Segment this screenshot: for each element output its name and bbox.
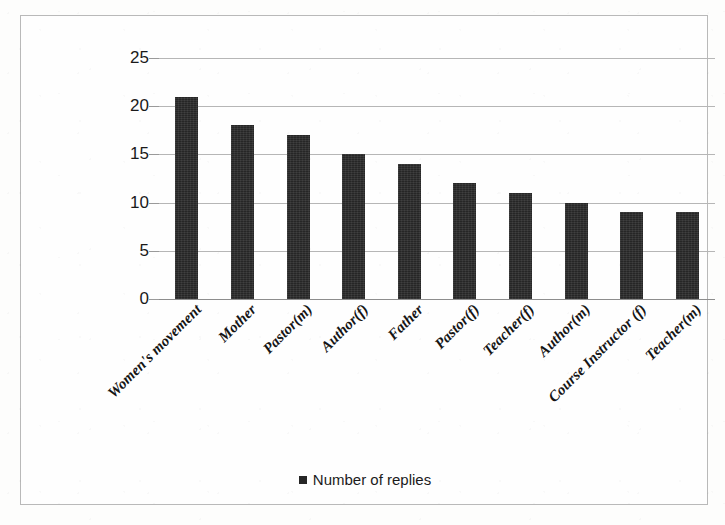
x-axis-category-label: Teacher(m)	[642, 301, 705, 364]
y-axis-tick-mark	[149, 106, 159, 107]
x-axis-category-label: Author(m)	[535, 301, 594, 360]
bar	[287, 135, 310, 299]
bar	[398, 164, 421, 299]
bar	[509, 193, 532, 299]
chart-frame: 0510152025 Women's movementMotherPastor(…	[20, 15, 708, 505]
y-axis-tick-mark	[149, 251, 159, 252]
scanned-page: 0510152025 Women's movementMotherPastor(…	[0, 0, 725, 525]
x-axis-category-label: Author(f)	[317, 301, 372, 356]
gridline	[159, 58, 715, 59]
y-axis-tick-label: 15	[29, 145, 149, 162]
y-axis-tick-label: 25	[29, 49, 149, 66]
bar	[620, 212, 643, 299]
bar	[175, 97, 198, 299]
y-axis-tick-label: 10	[29, 194, 149, 211]
gridline	[159, 106, 715, 107]
x-axis-category-label: Pastor(f)	[431, 301, 483, 353]
x-axis-category-label: Mother	[216, 301, 261, 346]
y-axis-tick-mark	[149, 203, 159, 204]
chart-legend: Number of replies	[21, 471, 709, 488]
y-axis-tick-mark	[149, 58, 159, 59]
y-axis-tick-label: 0	[29, 290, 149, 307]
y-axis-tick-label: 5	[29, 242, 149, 259]
legend-square-marker-icon	[299, 476, 307, 484]
x-axis-category-label: Father	[385, 301, 428, 344]
axis-baseline	[159, 299, 715, 300]
bar	[565, 203, 588, 299]
x-axis-category-label: Pastor(m)	[260, 301, 316, 357]
bar	[342, 154, 365, 299]
x-axis-category-label: Teacher(f)	[480, 301, 538, 359]
y-axis-tick-mark	[149, 299, 159, 300]
bar	[453, 183, 476, 299]
bar	[676, 212, 699, 299]
legend-label: Number of replies	[313, 471, 431, 488]
plot-area	[159, 58, 715, 299]
x-axis-labels: Women's movementMotherPastor(m)Author(f)…	[159, 301, 715, 426]
x-axis-category-label: Course Instructor (f)	[545, 301, 650, 406]
y-axis-tick-label: 20	[29, 97, 149, 114]
y-axis: 0510152025	[21, 58, 149, 299]
bar	[231, 125, 254, 299]
y-axis-tick-mark	[149, 154, 159, 155]
x-axis-category-label: Women's movement	[104, 301, 204, 401]
